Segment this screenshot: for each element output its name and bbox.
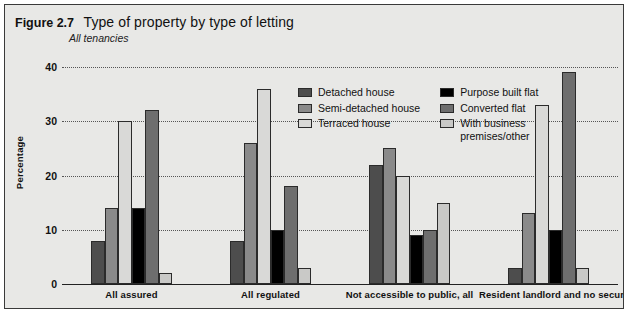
bar: [369, 165, 383, 284]
legend-swatch: [440, 104, 454, 113]
legend-swatch: [298, 104, 312, 113]
figure-header: Figure 2.7 Type of property by type of l…: [15, 13, 294, 44]
bar: [105, 208, 119, 284]
legend-item: Converted flat: [440, 102, 538, 115]
bar: [271, 230, 285, 284]
x-axis-category-labels: All assuredAll regulatedNot accessible t…: [62, 289, 618, 307]
legend-label: Terraced house: [318, 117, 390, 130]
legend-item: With business premises/other: [440, 117, 538, 142]
legend-label: Purpose built flat: [460, 86, 538, 99]
figure-panel: Figure 2.7 Type of property by type of l…: [4, 4, 624, 309]
bar: [244, 143, 258, 284]
bar: [383, 148, 397, 284]
bar: [145, 110, 159, 284]
figure-title: Type of property by type of letting: [84, 14, 295, 30]
y-axis-title: Percentage: [14, 115, 25, 211]
bar: [576, 268, 590, 284]
bar: [298, 268, 312, 284]
bar: [159, 273, 173, 284]
x-axis-category-label: Not accessible to public, all: [340, 289, 479, 300]
legend-column-1: Detached houseSemi-detached houseTerrace…: [298, 86, 420, 142]
y-axis-tick-label: 10: [11, 224, 57, 236]
x-axis-category-label: All regulated: [201, 289, 340, 300]
bar: [132, 208, 146, 284]
legend-label: With business premises/other: [460, 117, 529, 142]
legend-item: Purpose built flat: [440, 86, 538, 99]
y-axis-tick-label: 40: [11, 61, 57, 73]
bar-group: [62, 67, 201, 284]
bar: [549, 230, 563, 284]
legend-label: Detached house: [318, 86, 394, 99]
figure-subtitle: All tenancies: [69, 32, 294, 44]
bar: [522, 213, 536, 284]
legend-item: Terraced house: [298, 117, 420, 130]
chart-legend: Detached houseSemi-detached houseTerrace…: [298, 86, 538, 142]
y-axis-tick-label: 0: [11, 278, 57, 290]
x-axis-line: [62, 284, 618, 285]
bar: [118, 121, 132, 284]
legend-swatch: [440, 88, 454, 97]
legend-label: Converted flat: [460, 102, 525, 115]
legend-swatch: [440, 119, 454, 128]
bar: [230, 241, 244, 284]
x-axis-category-label: All assured: [62, 289, 201, 300]
bar: [396, 176, 410, 285]
bar: [410, 235, 424, 284]
bar: [437, 203, 451, 284]
bar: [257, 89, 271, 284]
x-axis-category-label: Resident landlord and no security: [479, 289, 618, 300]
legend-swatch: [298, 119, 312, 128]
figure-number: Figure 2.7: [15, 16, 74, 30]
legend-item: Semi-detached house: [298, 102, 420, 115]
legend-column-2: Purpose built flatConverted flatWith bus…: [440, 86, 538, 142]
legend-label: Semi-detached house: [318, 102, 420, 115]
bar: [91, 241, 105, 284]
bar: [423, 230, 437, 284]
bar: [562, 72, 576, 284]
bar: [508, 268, 522, 284]
legend-swatch: [298, 88, 312, 97]
bar: [284, 186, 298, 284]
legend-item: Detached house: [298, 86, 420, 99]
